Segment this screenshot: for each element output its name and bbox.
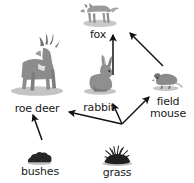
arrow-layer bbox=[0, 0, 194, 183]
food-web-diagram: fox roe deer rabbit bbox=[0, 0, 194, 183]
arrow-bushes-to-roe-deer bbox=[33, 115, 42, 140]
arrow-grass-to-roe-deer bbox=[69, 112, 122, 124]
arrow-field-mouse-to-fox bbox=[130, 33, 163, 66]
arrow-grass-to-field-mouse bbox=[122, 97, 149, 124]
arrow-grass-to-rabbit bbox=[113, 104, 122, 124]
